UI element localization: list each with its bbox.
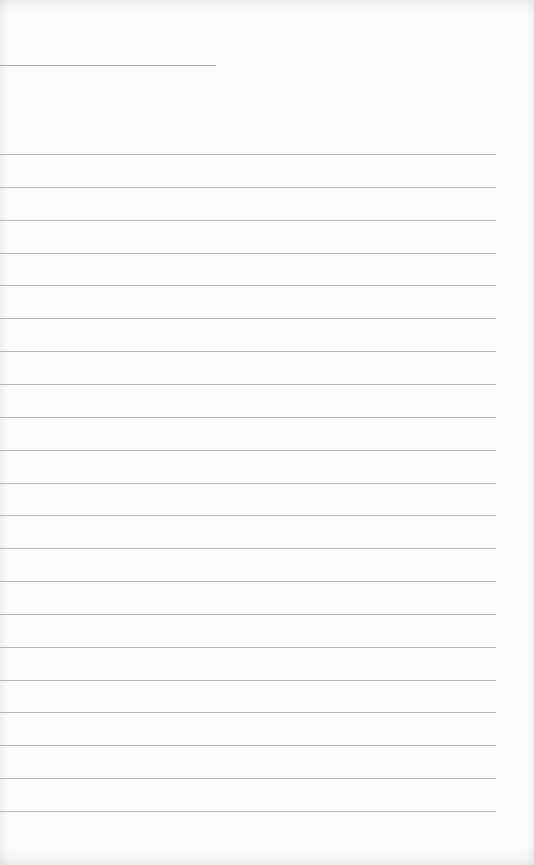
ruled-line xyxy=(0,253,496,254)
ruled-line xyxy=(0,745,496,746)
ruled-line xyxy=(0,318,496,319)
lined-paper-page xyxy=(0,0,534,865)
ruled-line xyxy=(0,285,496,286)
ruled-line xyxy=(0,187,496,188)
ruled-line xyxy=(0,220,496,221)
ruled-line xyxy=(0,417,496,418)
ruled-line xyxy=(0,647,496,648)
title-line xyxy=(0,65,216,66)
ruled-line xyxy=(0,614,496,615)
ruled-line xyxy=(0,811,496,812)
ruled-line xyxy=(0,384,496,385)
ruled-line xyxy=(0,680,496,681)
ruled-line xyxy=(0,483,496,484)
ruled-line xyxy=(0,515,496,516)
ruled-line xyxy=(0,548,496,549)
ruled-line xyxy=(0,154,496,155)
ruled-line xyxy=(0,351,496,352)
ruled-line xyxy=(0,712,496,713)
ruled-line xyxy=(0,778,496,779)
ruled-line xyxy=(0,581,496,582)
ruled-line xyxy=(0,450,496,451)
